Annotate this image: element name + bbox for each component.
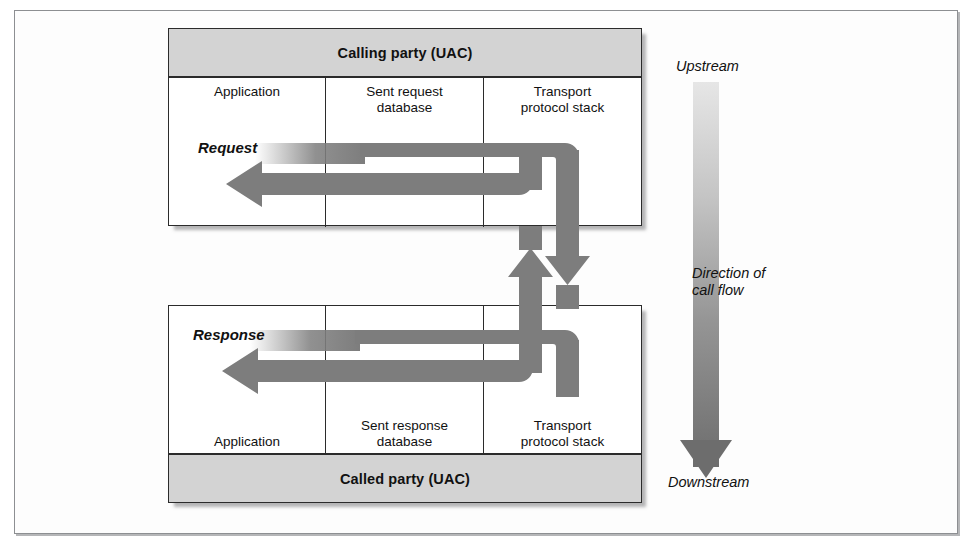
called-party-band: Called party (UAC) xyxy=(169,454,641,502)
calling-column-transport-protocol-stack: Transport protocol stack xyxy=(484,77,641,227)
direction-label-line1: Direction of xyxy=(692,265,765,281)
calling-application-text: Application xyxy=(214,84,280,99)
called-transport-text-line1: Transport xyxy=(534,418,591,433)
calling-party-box: Calling party (UAC) Application Sent req… xyxy=(168,28,642,226)
calling-label-divider xyxy=(169,77,641,78)
calling-column-transport-label: Transport protocol stack xyxy=(484,84,641,116)
called-column-sent-response-database-label: Sent response database xyxy=(326,418,483,450)
calling-column-sent-request-database: Sent request database xyxy=(325,77,484,227)
called-column-sent-response-database: Sent response database xyxy=(325,306,484,456)
direction-of-call-flow-label: Direction of call flow xyxy=(692,265,765,300)
calling-transport-text-line2: protocol stack xyxy=(521,100,604,115)
direction-label-line2: call flow xyxy=(692,282,744,298)
called-column-transport-protocol-stack: Transport protocol stack xyxy=(484,306,641,456)
called-application-text: Application xyxy=(214,434,280,449)
called-db-text-line2: database xyxy=(377,434,433,449)
calling-column-sent-request-database-label: Sent request database xyxy=(326,84,483,116)
request-flow-label: Request xyxy=(198,139,257,156)
calling-party-band: Calling party (UAC) xyxy=(169,29,641,77)
called-db-text-line1: Sent response xyxy=(361,418,448,433)
called-transport-text-line2: protocol stack xyxy=(521,434,604,449)
calling-db-text-line2: database xyxy=(377,100,433,115)
calling-transport-text-line1: Transport xyxy=(534,84,591,99)
upstream-label: Upstream xyxy=(676,58,739,75)
called-column-application-label: Application xyxy=(169,434,325,450)
response-flow-label: Response xyxy=(193,326,265,343)
downstream-label: Downstream xyxy=(668,474,749,491)
diagram-stage: Calling party (UAC) Application Sent req… xyxy=(0,0,976,557)
calling-db-text-line1: Sent request xyxy=(366,84,443,99)
calling-column-application-label: Application xyxy=(169,84,325,100)
called-column-transport-label: Transport protocol stack xyxy=(484,418,641,450)
